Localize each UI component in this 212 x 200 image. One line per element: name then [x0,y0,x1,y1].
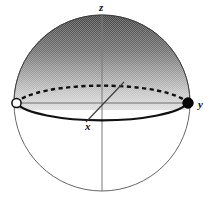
caption-remnant [0,193,212,200]
sphere-figure: z y x [0,0,212,200]
y-axis-label: y [198,99,203,110]
x-axis-label: x [85,121,91,132]
z-axis-label: z [99,2,103,13]
left-pole-marker-icon [12,98,21,107]
sphere-diagram [0,0,212,200]
y-pole-marker-icon [183,98,193,108]
